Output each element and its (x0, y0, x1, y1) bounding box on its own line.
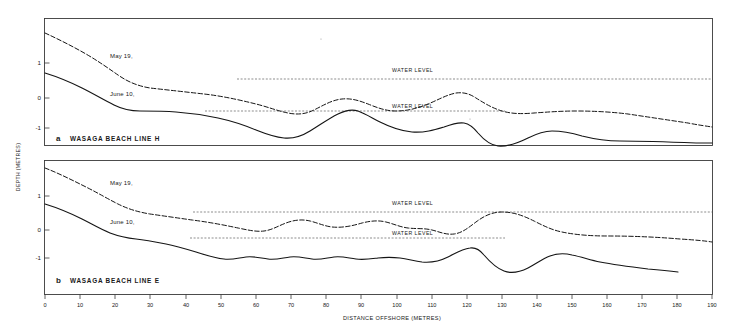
scan-speck (469, 118, 470, 119)
panel-b: 1 0 -1 WATER LEVEL WATER LEVEL May 19, J… (35, 161, 712, 295)
x-tick-label: 140 (532, 302, 541, 308)
panel-b-y-axis: 1 0 -1 (35, 192, 49, 261)
panel-b-letter: b (56, 276, 61, 285)
x-axis-title: DISTANCE OFFSHORE (METRES) (343, 315, 441, 321)
panel-a-letter: a (56, 134, 61, 143)
x-tick-label: 190 (707, 302, 716, 308)
series-label-may: May 19, (110, 53, 133, 59)
panel-b-frame (45, 161, 713, 295)
x-tick-label: 60 (253, 302, 259, 308)
x-tick-label: 180 (672, 302, 681, 308)
water-level-label: WATER LEVEL (392, 67, 433, 73)
x-tick-label: 110 (428, 302, 437, 308)
series-label-june: June 10, (110, 91, 135, 97)
profile-curve-may-19 (45, 168, 712, 242)
y-tick-label: 0 (38, 94, 42, 101)
y-tick-label: -1 (35, 254, 41, 261)
beach-profile-figure: 1 0 -1 WATER LEVEL WATER LEVEL May 19, J… (0, 0, 736, 331)
series-label-may: May 19, (110, 180, 133, 186)
y-tick-label: 0 (38, 226, 42, 233)
x-tick-label: 0 (43, 302, 46, 308)
x-tick-label: 120 (462, 302, 471, 308)
y-axis-title: DEPTH (METRES) (15, 143, 21, 191)
x-tick-label: 10 (77, 302, 83, 308)
x-tick-label: 170 (637, 302, 646, 308)
x-tick-label: 160 (602, 302, 611, 308)
x-tick-label: 40 (183, 302, 189, 308)
y-tick-label: 1 (38, 59, 42, 66)
profile-curve-june-10 (45, 204, 678, 272)
panel-b-title: WASAGA BEACH LINE E (70, 277, 160, 284)
figure-svg: 1 0 -1 WATER LEVEL WATER LEVEL May 19, J… (0, 0, 736, 331)
x-tick-label: 70 (288, 302, 294, 308)
x-tick-label: 50 (218, 302, 224, 308)
panel-a: 1 0 -1 WATER LEVEL WATER LEVEL May 19, J… (35, 19, 712, 147)
x-tick-label: 90 (358, 302, 364, 308)
water-level-label: WATER LEVEL (392, 230, 433, 236)
x-tick-label: 100 (392, 302, 401, 308)
panel-a-y-axis: 1 0 -1 (35, 59, 49, 131)
x-tick-label: 20 (112, 302, 118, 308)
x-tick-label: 30 (147, 302, 153, 308)
scan-speck (320, 38, 321, 39)
x-tick-label: 150 (567, 302, 576, 308)
x-tick-label: 80 (323, 302, 329, 308)
y-tick-label: -1 (35, 124, 41, 131)
series-label-june: June 10, (110, 219, 135, 225)
profile-curve-may-19 (45, 33, 712, 127)
x-axis: 0 10 20 30 40 50 60 70 80 90 100 110 120… (43, 295, 716, 322)
y-tick-label: 1 (38, 192, 42, 199)
x-tick-label: 130 (497, 302, 506, 308)
panel-a-title: WASAGA BEACH LINE H (70, 135, 160, 142)
panel-a-frame (45, 19, 713, 146)
water-level-label: WATER LEVEL (392, 200, 433, 206)
